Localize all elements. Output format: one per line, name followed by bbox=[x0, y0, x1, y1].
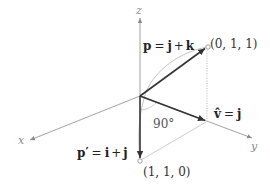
x-axis-label: x bbox=[18, 134, 25, 147]
label-p-equation: p=j+k bbox=[143, 39, 195, 53]
label-p-prime-equation: p′=i+j bbox=[77, 146, 128, 160]
y-axis-label: y bbox=[250, 140, 258, 153]
label-angle: 90° bbox=[153, 117, 174, 131]
point-p-prime-marker bbox=[138, 159, 142, 163]
rotation-diagram: z x y p=j+k (0, 1, 1) v̂=j 90° p′=i+j (1… bbox=[0, 0, 270, 187]
z-axis-label: z bbox=[135, 4, 142, 17]
label-p-prime: p′ bbox=[77, 146, 89, 160]
label-point-p: (0, 1, 1) bbox=[210, 37, 258, 51]
x-axis bbox=[30, 96, 140, 140]
vector-p bbox=[140, 49, 205, 97]
label-point-p-prime: (1, 1, 0) bbox=[143, 165, 191, 179]
label-v-hat-equation: v̂=j bbox=[213, 107, 241, 121]
rotation-arc bbox=[139, 47, 207, 160]
label-v-hat: v̂ bbox=[213, 107, 222, 121]
label-p: p bbox=[143, 39, 151, 53]
